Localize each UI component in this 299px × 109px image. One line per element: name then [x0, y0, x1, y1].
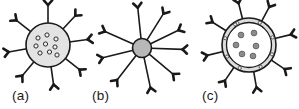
antibody-stem-icon: [147, 14, 164, 41]
inner-marker-c-1: [251, 30, 257, 36]
antibody-c-6: [202, 51, 223, 60]
diagram-canvas: (a)(b)(c): [0, 0, 299, 109]
antibody-stem-icon: [103, 50, 134, 58]
inner-marker-c-0: [238, 32, 244, 38]
antibody-b-3: [151, 45, 187, 53]
antibody-stem-icon: [144, 57, 151, 88]
panel-label-c: (c): [202, 88, 218, 103]
inner-marker-a-1: [45, 33, 49, 37]
antibody-stem-icon: [22, 61, 34, 75]
antibody-stem-icon: [213, 22, 227, 31]
shell-pore-c-4: [259, 65, 262, 68]
inner-marker-a-2: [54, 37, 58, 41]
antibody-c-5: [219, 67, 234, 87]
shell-pore-c-1: [258, 21, 261, 24]
particle-body-b: [133, 39, 152, 58]
antibody-c-2: [275, 29, 296, 38]
inner-marker-a-5: [53, 45, 57, 49]
antibody-c-0: [233, 0, 242, 19]
inner-marker-c-4: [239, 51, 245, 57]
antibody-b-7: [97, 50, 133, 63]
inner-marker-a-3: [34, 44, 38, 48]
antibody-c-7: [206, 16, 226, 31]
antibody-c-1: [261, 1, 275, 22]
antibody-a-2: [69, 35, 92, 43]
panel-b: [97, 3, 187, 93]
antibody-stem-icon: [117, 55, 136, 80]
antibody-stem-icon: [65, 58, 80, 69]
shell-pore-c-6: [226, 55, 229, 58]
antibody-a-7: [10, 14, 31, 31]
inner-marker-a-0: [36, 36, 40, 40]
antibody-stem-icon: [207, 51, 223, 55]
antibody-b-4: [149, 54, 179, 80]
antibody-b-5: [144, 57, 156, 93]
antibody-stem-icon: [239, 3, 243, 19]
shell-pore-c-7: [224, 37, 227, 40]
particle-body-a: [26, 23, 70, 67]
antibody-stem-icon: [149, 54, 173, 74]
panel-label-b: (b): [92, 88, 109, 103]
antibody-stem-icon: [275, 35, 291, 39]
antibody-stem-icon: [261, 7, 269, 22]
antibody-c-3: [271, 60, 291, 75]
antibody-stem-icon: [63, 16, 76, 30]
inner-marker-a-6: [38, 51, 42, 55]
antibody-a-1: [63, 10, 82, 30]
antibody-b-0: [133, 3, 141, 39]
antibody-stem-icon: [254, 71, 257, 87]
antibody-stem-icon: [105, 32, 134, 45]
shell-pore-c-2: [271, 36, 274, 39]
figure-panel-group: (a)(b)(c): [0, 0, 299, 109]
antibody-a-5: [16, 61, 34, 81]
shell-pore-c-8: [234, 23, 237, 26]
panel-label-a: (a): [12, 88, 29, 103]
antibody-a-4: [50, 66, 58, 89]
antibody-c-4: [253, 71, 261, 93]
inner-marker-c-2: [233, 42, 239, 48]
antibody-stem-icon: [151, 48, 182, 49]
inner-marker-a-7: [47, 50, 51, 54]
inner-marker-c-3: [253, 43, 259, 49]
antibody-stem-icon: [150, 30, 178, 44]
antibody-stem-icon: [51, 66, 54, 84]
antibody-stem-icon: [16, 20, 31, 31]
antibody-a-0: [44, 0, 52, 23]
antibody-a-6: [3, 49, 26, 57]
shell-pore-c-3: [270, 53, 273, 56]
panel-a: [3, 0, 92, 89]
antibody-a-3: [65, 58, 86, 75]
antibody-stem-icon: [225, 67, 234, 81]
antibody-b-6: [111, 55, 137, 86]
inner-marker-c-5: [250, 53, 256, 59]
antibody-stem-icon: [9, 49, 27, 52]
antibody-stem-icon: [271, 60, 285, 69]
shell-pore-c-5: [238, 66, 241, 69]
inner-marker-a-8: [55, 53, 59, 57]
panel-c: [202, 0, 296, 93]
inner-marker-a-4: [43, 42, 47, 46]
antibody-stem-icon: [138, 8, 141, 39]
antibody-stem-icon: [69, 39, 87, 42]
antibody-b-8: [99, 26, 134, 44]
